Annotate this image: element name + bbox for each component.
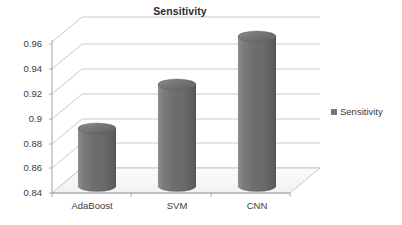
bar-cnn[interactable]: [238, 31, 276, 192]
bar-svm[interactable]: [158, 79, 196, 192]
y-tick-label-0.84: 0.84: [8, 187, 42, 198]
x-tick-label-svm: SVM: [142, 200, 212, 211]
y-tick-label-0.9: 0.9: [8, 113, 42, 124]
bar-adaboost[interactable]: [78, 123, 116, 192]
y-tick-label-0.88: 0.88: [8, 138, 42, 149]
legend-label-sensitivity: Sensitivity: [340, 106, 383, 117]
legend-swatch-icon: [331, 109, 337, 115]
y-tick-label-0.92: 0.92: [8, 88, 42, 99]
y-tick-label-0.94: 0.94: [8, 63, 42, 74]
sensitivity-bar-chart: Sensitivity 0.96 0.94 0.92 0.9 0.88 0.86…: [0, 0, 402, 225]
y-tick-label-0.86: 0.86: [8, 162, 42, 173]
x-axis-ticks: [52, 193, 290, 197]
x-tick-label-cnn: CNN: [222, 200, 292, 211]
chart-legend: Sensitivity: [331, 106, 383, 117]
chart-title: Sensitivity: [60, 5, 300, 17]
y-tick-label-0.96: 0.96: [8, 38, 42, 49]
x-tick-label-adaboost: AdaBoost: [57, 200, 127, 211]
